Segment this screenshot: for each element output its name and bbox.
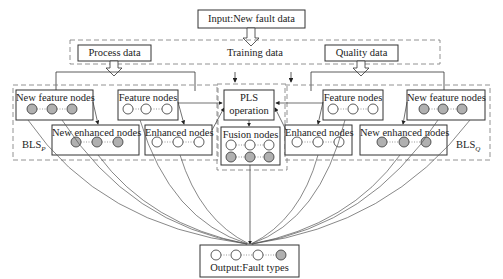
training-data-label: Training data xyxy=(210,47,300,59)
bls-q-new-feature-nodes-label: New feature nodes xyxy=(407,92,485,104)
fusion-nodes-label: Fusion nodes xyxy=(221,129,280,141)
bls-p-new-enhanced-nodes-label: New enhanced nodes xyxy=(52,127,139,139)
pls-line2: operation xyxy=(224,105,274,117)
bls-q-label: BLSQ xyxy=(456,139,480,155)
bls-q-enhanced-nodes-label: Enhanced nodes xyxy=(285,127,352,139)
hollow-arrow-quality xyxy=(353,61,369,76)
bls-p-text: BLS xyxy=(22,139,41,150)
input-label: Input:New fault data xyxy=(198,13,305,25)
hollow-arrow-process xyxy=(106,61,122,76)
bls-q-subscript: Q xyxy=(475,145,480,153)
output-label: Output:Fault types xyxy=(200,262,299,274)
process-data-label: Process data xyxy=(78,47,151,59)
bls-q-new-enhanced-nodes-label: New enhanced nodes xyxy=(360,127,447,139)
bls-p-subscript: P xyxy=(41,145,45,153)
bls-p-feature-nodes-label: Feature nodes xyxy=(118,92,178,104)
bls-q-text: BLS xyxy=(456,139,475,150)
bls-p-new-feature-nodes-label: New feature nodes xyxy=(16,92,93,104)
hollow-arrow-input xyxy=(243,28,259,46)
pls-line1: PLS xyxy=(224,92,274,104)
quality-data-label: Quality data xyxy=(325,47,398,59)
bls-q-feature-nodes-label: Feature nodes xyxy=(323,92,383,104)
bls-p-enhanced-nodes-label: Enhanced nodes xyxy=(145,127,212,139)
bls-p-label: BLSP xyxy=(22,139,46,155)
